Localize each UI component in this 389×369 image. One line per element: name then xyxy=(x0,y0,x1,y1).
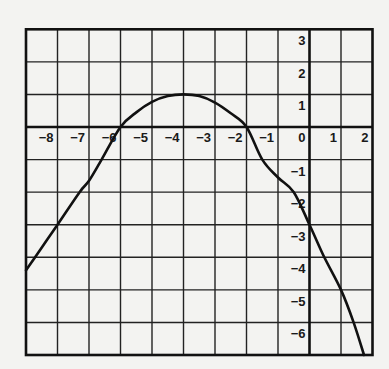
x-tick-label: −3 xyxy=(196,130,211,145)
x-tick-label: −7 xyxy=(70,130,85,145)
x-tick-label: 0 xyxy=(298,130,305,145)
function-graph: −8−7−6−5−4−3−2−1012 321−1−2−3−4−5−6 xyxy=(0,0,389,369)
y-tick-label: −1 xyxy=(291,164,306,179)
x-tick-label: −1 xyxy=(259,130,274,145)
y-tick-label: −4 xyxy=(291,261,307,276)
y-tick-label: 3 xyxy=(298,33,305,48)
x-tick-labels: −8−7−6−5−4−3−2−1012 xyxy=(39,130,369,145)
grid-lines xyxy=(26,29,373,355)
y-tick-label: −6 xyxy=(291,326,306,341)
y-tick-label: 1 xyxy=(298,98,305,113)
y-tick-label: −3 xyxy=(291,229,306,244)
y-tick-label: −5 xyxy=(291,294,306,309)
y-tick-labels: 321−1−2−3−4−5−6 xyxy=(291,33,307,341)
x-tick-label: −4 xyxy=(165,130,181,145)
x-tick-label: −2 xyxy=(228,130,243,145)
x-tick-label: −5 xyxy=(133,130,148,145)
y-tick-label: 2 xyxy=(298,66,305,81)
x-tick-label: 2 xyxy=(361,130,368,145)
x-tick-label: −8 xyxy=(39,130,54,145)
x-tick-label: 1 xyxy=(330,130,337,145)
